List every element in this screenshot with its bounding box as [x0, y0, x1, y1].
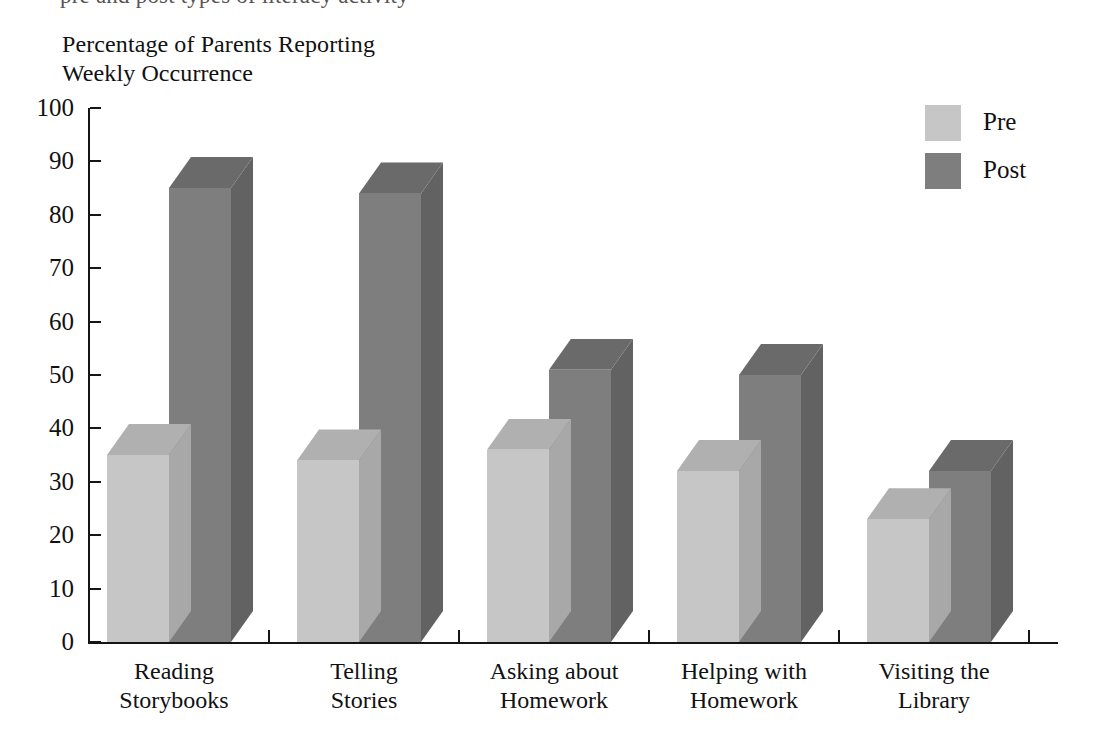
y-tick-label-20: 20 — [22, 522, 74, 547]
bar-pre-1 — [297, 429, 381, 642]
bar-pre-2-side-face — [549, 419, 571, 642]
bar-pre-3-side-face — [739, 440, 761, 642]
y-tick-label-0: 0 — [22, 629, 74, 654]
bar-pre-0 — [107, 424, 191, 642]
y-tick-10 — [90, 588, 101, 590]
y-tick-label-70: 70 — [22, 255, 74, 280]
bar-post-2-side-face — [611, 339, 633, 642]
y-tick-label-80: 80 — [22, 202, 74, 227]
category-label-3: Helping withHomework — [639, 657, 849, 715]
y-tick-label-50: 50 — [22, 362, 74, 387]
x-tick-3 — [838, 630, 840, 643]
bar-pre-1-side-face — [359, 429, 381, 642]
bar-pre-3-front-face — [677, 471, 739, 642]
category-label-1: TellingStories — [259, 657, 469, 715]
y-tick-90 — [90, 160, 101, 162]
y-tick-40 — [90, 427, 101, 429]
bar-pre-4-front-face — [867, 519, 929, 642]
x-tick-1 — [458, 630, 460, 643]
category-label-2: Asking aboutHomework — [449, 657, 659, 715]
x-axis-line — [88, 642, 1058, 644]
category-label-4: Visiting theLibrary — [829, 657, 1039, 715]
y-tick-label-10: 10 — [22, 576, 74, 601]
category-label-0-line0: Reading — [69, 657, 279, 686]
bar-pre-0-front-face — [107, 455, 169, 642]
x-tick-4 — [1028, 630, 1030, 643]
bar-post-4-side-face — [991, 440, 1013, 642]
bar-pre-3 — [677, 440, 761, 642]
y-tick-20 — [90, 534, 101, 536]
y-tick-label-100: 100 — [22, 95, 74, 120]
bar-post-0-side-face — [231, 157, 253, 642]
bar-post-1-side-face — [421, 162, 443, 642]
y-tick-30 — [90, 481, 101, 483]
y-tick-label-90: 90 — [22, 148, 74, 173]
y-tick-label-30: 30 — [22, 469, 74, 494]
y-tick-60 — [90, 321, 101, 323]
category-label-4-line0: Visiting the — [829, 657, 1039, 686]
x-tick-0 — [268, 630, 270, 643]
y-tick-0 — [90, 641, 101, 643]
bar-post-3-side-face — [801, 344, 823, 642]
category-label-4-line1: Library — [829, 686, 1039, 715]
y-tick-label-40: 40 — [22, 415, 74, 440]
legend-swatch-post — [925, 153, 961, 189]
category-label-3-line0: Helping with — [639, 657, 849, 686]
bar-pre-1-front-face — [297, 460, 359, 642]
category-label-1-line1: Stories — [259, 686, 469, 715]
category-label-2-line0: Asking about — [449, 657, 659, 686]
legend-label-post: Post — [983, 152, 1026, 188]
y-tick-label-60: 60 — [22, 309, 74, 334]
category-label-1-line0: Telling — [259, 657, 469, 686]
bar-pre-2-front-face — [487, 450, 549, 642]
category-label-0-line1: Storybooks — [69, 686, 279, 715]
legend-swatch-pre — [925, 105, 961, 141]
y-tick-80 — [90, 214, 101, 216]
x-tick-2 — [648, 630, 650, 643]
y-tick-100 — [90, 107, 101, 109]
bar-pre-4 — [867, 488, 951, 642]
bar-pre-0-side-face — [169, 424, 191, 642]
y-tick-70 — [90, 267, 101, 269]
category-label-3-line1: Homework — [639, 686, 849, 715]
category-label-0: ReadingStorybooks — [69, 657, 279, 715]
y-axis-line — [88, 108, 90, 644]
bar-pre-2 — [487, 419, 571, 642]
category-label-2-line1: Homework — [449, 686, 659, 715]
legend-label-pre: Pre — [983, 104, 1016, 140]
y-tick-50 — [90, 374, 101, 376]
